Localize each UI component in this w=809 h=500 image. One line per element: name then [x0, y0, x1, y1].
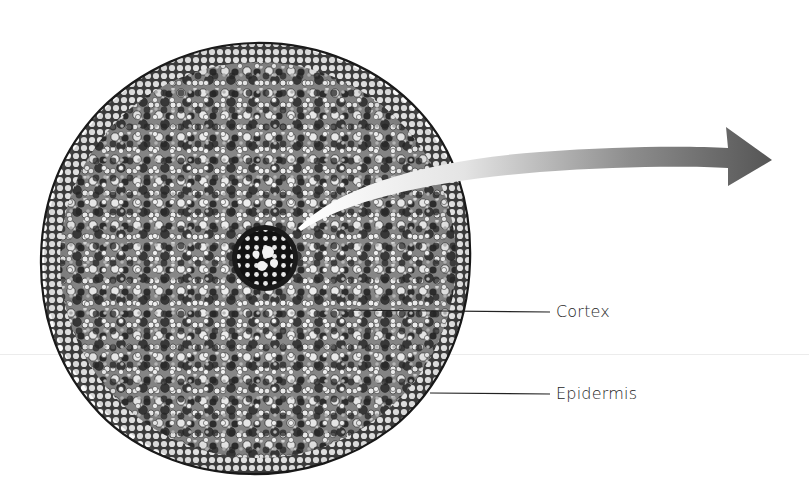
vascular-cylinder	[232, 225, 298, 291]
root-cross-section-figure: Cortex Epidermis	[0, 0, 809, 500]
root-micrograph	[41, 43, 472, 476]
label-epidermis: Epidermis	[556, 384, 637, 403]
epidermis-leader-line	[430, 393, 550, 394]
label-cortex: Cortex	[556, 302, 610, 321]
